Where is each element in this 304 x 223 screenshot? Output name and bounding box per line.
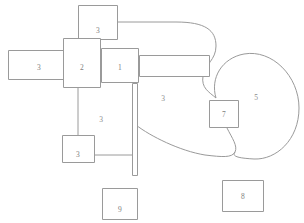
- node-top-3-label: 3: [96, 27, 100, 35]
- node-left-3-label: 3: [37, 64, 41, 72]
- node-9-label: 9: [118, 206, 122, 214]
- node-right-bar-shape[interactable]: [140, 56, 210, 77]
- node-2-label: 2: [80, 64, 84, 72]
- diagram-canvas: 3 3 2 1 3 7 9 8 3 3 5: [0, 0, 304, 223]
- node-8-label: 8: [241, 193, 245, 201]
- node-9-shape[interactable]: [103, 189, 138, 220]
- connector-node7-to-bar: [136, 125, 236, 157]
- diagram-vector-layer: [0, 0, 304, 223]
- label-region-3-mid: 3: [161, 95, 165, 103]
- node-vertical-bar-shape[interactable]: [133, 84, 138, 176]
- label-region-5: 5: [254, 94, 258, 102]
- node-7-label: 7: [222, 111, 226, 119]
- node-1-label: 1: [118, 64, 122, 72]
- node-lower-3-label: 3: [76, 151, 80, 159]
- label-region-3-lowerleft: 3: [99, 116, 103, 124]
